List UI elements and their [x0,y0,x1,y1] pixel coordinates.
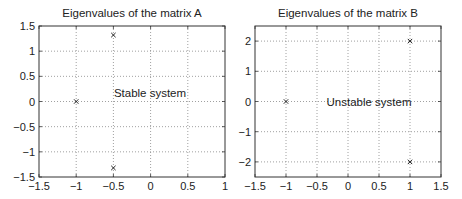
x-tick-label: 1 [222,180,228,192]
figure: −1.5−1−0.500.511.510.50−0.5−1−1.5Eigenva… [0,0,462,199]
y-tick-label: 1.5 [20,20,35,32]
x-tick-label: −1 [70,180,83,192]
y-tick-label: −1 [22,146,35,158]
x-tick-label: 0 [345,180,351,192]
x-tick-label: 1.5 [433,180,448,192]
x-tick-label: 1 [407,180,413,192]
annotation-label: Stable system [114,87,186,99]
plot-matrix-b: −1.5−1−0.500.511.5210−1−2Eigenvalues of … [238,7,448,192]
y-tick-label: 2 [245,35,251,47]
y-tick-label: 1 [245,65,251,77]
y-tick-label: −2 [238,156,251,168]
chart-title: Eigenvalues of the matrix A [62,7,202,19]
x-tick-label: −1.5 [244,180,266,192]
y-tick-label: 0 [245,96,251,108]
x-tick-label: −1 [280,180,293,192]
y-tick-label: −1.5 [13,171,35,183]
x-tick-label: 0.5 [371,180,386,192]
y-tick-label: 1 [29,45,35,57]
plot-matrix-a: −1.5−1−0.500.511.510.50−0.5−1−1.5Eigenva… [13,7,228,192]
x-tick-label: 0.5 [180,180,195,192]
x-tick-label: −0.5 [103,180,125,192]
y-tick-label: 0 [29,96,35,108]
x-tick-label: 0 [148,180,154,192]
y-tick-label: −0.5 [13,121,35,133]
chart-title: Eigenvalues of the matrix B [278,7,418,19]
x-tick-label: −0.5 [306,180,328,192]
y-tick-label: 0.5 [20,70,35,82]
y-tick-label: −1 [238,126,251,138]
annotation-label: Unstable system [326,96,411,108]
